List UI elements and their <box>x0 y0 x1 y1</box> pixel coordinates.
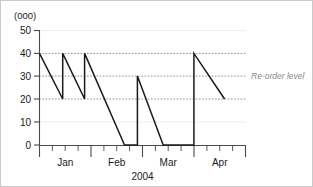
ytick-label-40: 40 <box>20 48 32 59</box>
unit-label: (000) <box>14 10 36 21</box>
chart-figure: (000) 50 40 30 20 10 <box>0 0 313 187</box>
x-axis-title: 2004 <box>131 171 154 182</box>
y-axis-ticks <box>34 31 40 146</box>
x-axis-month-labels: Jan Feb Mar Apr <box>57 157 228 168</box>
xtick-label-mar: Mar <box>160 157 178 168</box>
y-axis-tick-labels: 50 40 30 20 10 0 <box>20 25 32 151</box>
xtick-label-jan: Jan <box>57 157 73 168</box>
xtick-label-feb: Feb <box>108 157 126 168</box>
inventory-sawtooth-chart: (000) 50 40 30 20 10 <box>1 1 313 187</box>
ytick-label-50: 50 <box>20 25 32 36</box>
ytick-label-30: 30 <box>20 71 32 82</box>
x-axis-major-ticks <box>40 146 246 158</box>
ytick-label-0: 0 <box>25 140 31 151</box>
dashed-gridlines <box>39 53 246 99</box>
ytick-label-10: 10 <box>20 117 32 128</box>
ytick-label-20: 20 <box>20 94 32 105</box>
reorder-level-annotation: Re-order level <box>251 71 305 81</box>
xtick-label-apr: Apr <box>212 157 228 168</box>
